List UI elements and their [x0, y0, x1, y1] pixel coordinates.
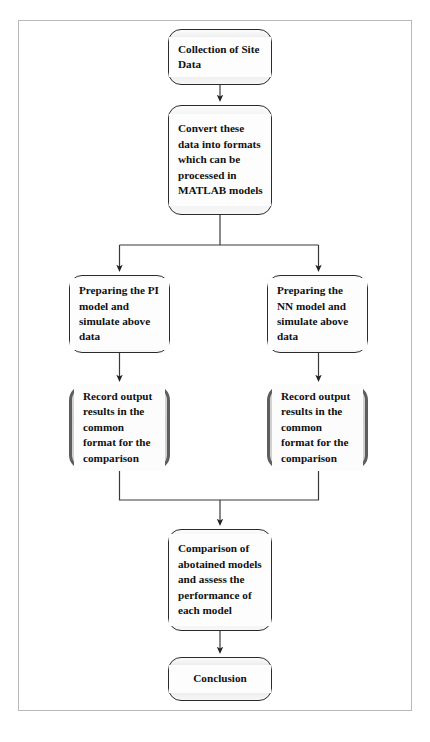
flowchart-page: Collection of Site Data Convert these da…	[0, 0, 430, 742]
node-label: Conclusion	[169, 665, 271, 692]
node-record-output-pi[interactable]: Record output results in the common form…	[69, 385, 170, 470]
node-label: Record output results in the common form…	[272, 384, 363, 471]
node-preparing-nn-model[interactable]: Preparing the NN model and simulate abov…	[267, 275, 368, 353]
node-label: Record output results in the common form…	[74, 384, 165, 471]
node-label: Preparing the PI model and simulate abov…	[70, 278, 169, 350]
node-collection-of-site-data[interactable]: Collection of Site Data	[168, 29, 272, 85]
node-convert-data-to-matlab-formats[interactable]: Convert these data into formats which ca…	[168, 105, 272, 215]
node-label: Preparing the NN model and simulate abov…	[268, 278, 367, 350]
node-label: Comparison of abotained models and asses…	[169, 534, 271, 625]
node-preparing-pi-model[interactable]: Preparing the PI model and simulate abov…	[69, 275, 170, 353]
node-record-output-nn[interactable]: Record output results in the common form…	[267, 385, 368, 470]
node-comparison-of-models[interactable]: Comparison of abotained models and asses…	[168, 529, 272, 631]
node-label: Convert these data into formats which ca…	[169, 114, 271, 205]
node-label: Collection of Site Data	[169, 37, 271, 78]
node-conclusion[interactable]: Conclusion	[168, 657, 272, 701]
edge-merge-to-comparison	[120, 470, 319, 523]
edge-convert-split	[120, 215, 319, 269]
